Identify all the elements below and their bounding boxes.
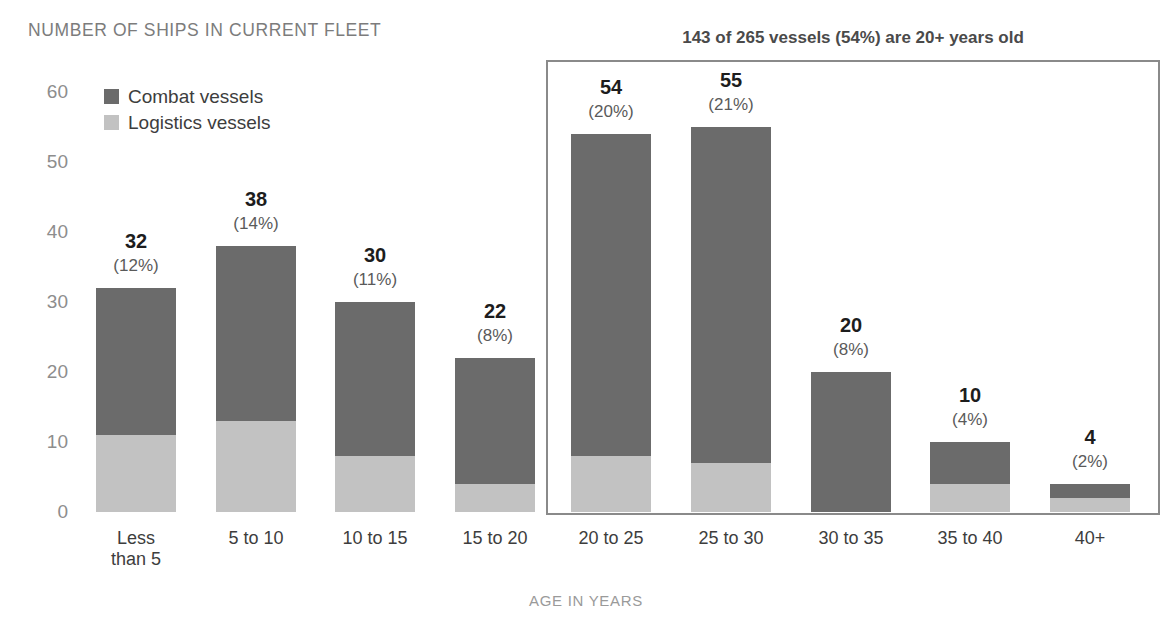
category-label-line: Less (71, 528, 201, 549)
bar-segment-logistics (96, 435, 176, 512)
x-axis-category-label: 40+ (1025, 528, 1155, 549)
bar-segment-combat (571, 134, 651, 456)
x-axis-category-label: 25 to 30 (666, 528, 796, 549)
bar-segment-combat (691, 127, 771, 463)
bar-segment-combat (455, 358, 535, 484)
bar-35-to-40[interactable] (930, 442, 1010, 512)
bar-segment-combat (216, 246, 296, 421)
bar-value-label: 54 (551, 76, 671, 99)
category-label-line: 15 to 20 (430, 528, 560, 549)
bar-40-[interactable] (1050, 484, 1130, 512)
bar-5-to-10[interactable] (216, 246, 296, 512)
bar-segment-combat (930, 442, 1010, 484)
chart-container: NUMBER OF SHIPS IN CURRENT FLEET 143 of … (0, 0, 1172, 637)
bar-value-label: 55 (671, 69, 791, 92)
category-label-line: 40+ (1025, 528, 1155, 549)
plot-area: 32(12%)Lessthan 538(14%)5 to 1030(11%)10… (0, 0, 1172, 637)
bar-value-label: 20 (791, 314, 911, 337)
bar-percent-label: (2%) (1030, 452, 1150, 472)
bar-segment-logistics (216, 421, 296, 512)
bar-segment-combat (811, 372, 891, 512)
category-label-line: 20 to 25 (546, 528, 676, 549)
bar-less-than-5[interactable] (96, 288, 176, 512)
bar-value-label: 30 (315, 244, 435, 267)
bar-value-label: 32 (76, 230, 196, 253)
bar-10-to-15[interactable] (335, 302, 415, 512)
bar-value-label: 38 (196, 188, 316, 211)
x-axis-category-label: 35 to 40 (905, 528, 1035, 549)
bar-value-label: 10 (910, 384, 1030, 407)
x-axis-category-label: 15 to 20 (430, 528, 560, 549)
bar-segment-combat (335, 302, 415, 456)
bar-30-to-35[interactable] (811, 372, 891, 512)
bar-segment-logistics (571, 456, 651, 512)
category-label-line: 25 to 30 (666, 528, 796, 549)
bar-percent-label: (8%) (435, 326, 555, 346)
bar-percent-label: (20%) (551, 102, 671, 122)
bar-percent-label: (12%) (76, 256, 196, 276)
x-axis-category-label: Lessthan 5 (71, 528, 201, 570)
bar-value-label: 22 (435, 300, 555, 323)
x-axis-title: AGE IN YEARS (0, 592, 1172, 609)
x-axis-category-label: 30 to 35 (786, 528, 916, 549)
bar-20-to-25[interactable] (571, 134, 651, 512)
bar-segment-logistics (930, 484, 1010, 512)
x-axis-category-label: 10 to 15 (310, 528, 440, 549)
category-label-line: 10 to 15 (310, 528, 440, 549)
bar-15-to-20[interactable] (455, 358, 535, 512)
bar-value-label: 4 (1030, 426, 1150, 449)
bar-percent-label: (4%) (910, 410, 1030, 430)
category-label-line: 35 to 40 (905, 528, 1035, 549)
bar-25-to-30[interactable] (691, 127, 771, 512)
x-axis-category-label: 20 to 25 (546, 528, 676, 549)
bar-percent-label: (14%) (196, 214, 316, 234)
bar-segment-logistics (1050, 498, 1130, 512)
category-label-line: 5 to 10 (191, 528, 321, 549)
bar-segment-logistics (691, 463, 771, 512)
x-axis-category-label: 5 to 10 (191, 528, 321, 549)
category-label-line: than 5 (71, 549, 201, 570)
bar-percent-label: (11%) (315, 270, 435, 290)
bar-segment-logistics (455, 484, 535, 512)
bar-percent-label: (21%) (671, 95, 791, 115)
bar-segment-combat (96, 288, 176, 435)
bar-segment-combat (1050, 484, 1130, 498)
bar-percent-label: (8%) (791, 340, 911, 360)
category-label-line: 30 to 35 (786, 528, 916, 549)
bar-segment-logistics (335, 456, 415, 512)
